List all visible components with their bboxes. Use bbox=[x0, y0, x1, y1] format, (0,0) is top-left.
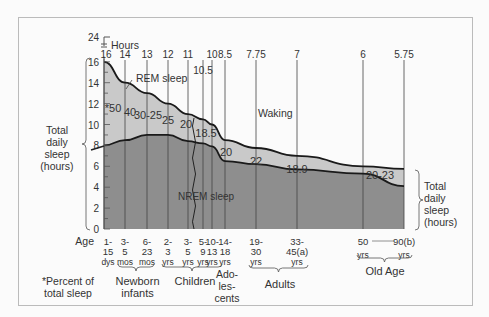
age-unit: yrs bbox=[182, 257, 193, 267]
y-tick-label: 12 bbox=[88, 99, 100, 110]
age-line1: 90(b) bbox=[393, 236, 415, 247]
rem-percent: 22 bbox=[250, 155, 262, 167]
age-line2: 30 bbox=[251, 246, 262, 257]
age-line1: 50 bbox=[358, 236, 369, 247]
group-adults: Adults bbox=[245, 278, 315, 290]
y-tick-label: 10 bbox=[88, 120, 100, 131]
age-unit: yrs bbox=[162, 257, 173, 267]
footnote: *Percent oftotal sleep bbox=[28, 275, 108, 299]
rem-percent: 20-23 bbox=[366, 169, 394, 181]
age-unit: yrs bbox=[250, 257, 261, 267]
age-line2: 45(a) bbox=[286, 246, 308, 257]
y-tick-label: 24 bbox=[88, 32, 100, 43]
rem-percent: 20 bbox=[180, 118, 192, 130]
age-unit: yrs bbox=[357, 250, 368, 260]
y-tick-label: 2 bbox=[93, 203, 99, 214]
rem-percent: 18.5 bbox=[195, 127, 216, 139]
age-line2: 5 bbox=[122, 246, 127, 257]
top-hours-value: 10.5 bbox=[193, 65, 213, 76]
y-right-title: Totaldailysleep(hours) bbox=[424, 180, 474, 228]
age-unit: yrs bbox=[398, 250, 409, 260]
waking-label: Waking bbox=[258, 107, 293, 119]
age-unit: yrs bbox=[291, 257, 302, 267]
top-hours-value: 7.75 bbox=[246, 49, 266, 60]
y-tick-label: 0 bbox=[93, 224, 99, 235]
age-unit: mos bbox=[117, 257, 133, 267]
top-hours-value: 5.75 bbox=[394, 49, 414, 60]
top-hours-value: 8.5 bbox=[218, 49, 232, 60]
y-tick-label: 16 bbox=[88, 57, 100, 68]
group-newborn: Newborninfants bbox=[110, 275, 165, 299]
age-line2: 9 bbox=[200, 246, 205, 257]
top-hours-value: 11 bbox=[183, 49, 194, 60]
top-hours-value: 12 bbox=[162, 49, 174, 60]
age-line2: 18 bbox=[220, 246, 231, 257]
age-line2: 5 bbox=[185, 246, 190, 257]
age-unit: yrs bbox=[219, 257, 230, 267]
age-unit: yrs bbox=[206, 257, 217, 267]
top-hours-value: 14 bbox=[119, 49, 131, 60]
group-adolescents: Ado-les-cents bbox=[212, 268, 242, 304]
group-old-age: Old Age bbox=[350, 265, 420, 277]
rem-percent: 30-25 bbox=[134, 109, 162, 121]
age-label: Age bbox=[75, 235, 94, 247]
age-unit: mos bbox=[139, 257, 155, 267]
rem-percent: 18.9 bbox=[286, 163, 307, 175]
age-unit: dys bbox=[101, 257, 114, 267]
brace-right bbox=[415, 170, 423, 230]
rem-percent: 20 bbox=[220, 146, 232, 158]
nrem-label: NREM sleep bbox=[178, 191, 235, 202]
rem-label: REM sleep bbox=[136, 72, 188, 84]
y-tick-label: 14 bbox=[88, 78, 100, 89]
y-tick-label: 4 bbox=[93, 182, 99, 193]
top-hours-value: 16 bbox=[100, 49, 112, 60]
top-hours-value: 7 bbox=[294, 49, 300, 60]
top-hours-value: 13 bbox=[141, 49, 153, 60]
rem-percent: *50 bbox=[105, 102, 122, 114]
age-line2: 23 bbox=[142, 246, 153, 257]
y-left-title: Totaldailysleep(hours) bbox=[30, 124, 84, 172]
age-line2: 15 bbox=[103, 246, 114, 257]
rem-percent: 25 bbox=[162, 114, 174, 126]
top-hours-value: 6 bbox=[360, 49, 366, 60]
age-line2: 13 bbox=[207, 246, 218, 257]
age-line2: 3 bbox=[165, 246, 170, 257]
top-hours-value: 10 bbox=[206, 49, 218, 60]
y-tick-label: 6 bbox=[93, 161, 99, 172]
